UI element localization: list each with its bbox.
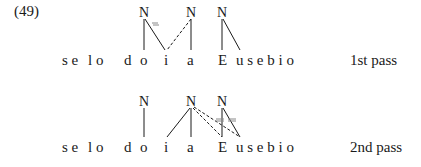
association-line bbox=[167, 108, 190, 137]
dashed-association bbox=[193, 108, 222, 137]
dashed-association bbox=[167, 19, 191, 50]
association-lines bbox=[0, 0, 421, 167]
association-line bbox=[145, 19, 165, 50]
dashed-association bbox=[194, 107, 240, 137]
association-line bbox=[223, 108, 240, 137]
association-line bbox=[223, 19, 240, 50]
